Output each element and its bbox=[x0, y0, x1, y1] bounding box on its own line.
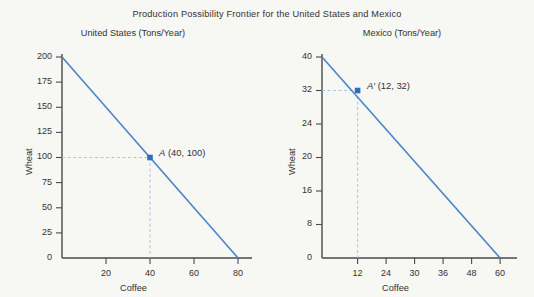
data-point-label-a: A (40, 100) bbox=[159, 147, 205, 158]
x-tick-label: 60 bbox=[480, 268, 520, 278]
y-tick-label: 200 bbox=[16, 51, 52, 61]
data-point-name: A′ bbox=[367, 80, 375, 91]
y-tick-label: 24 bbox=[279, 118, 312, 128]
y-tick-label: 50 bbox=[16, 202, 52, 212]
y-tick-label: 125 bbox=[16, 126, 52, 136]
ppf-line-mexico bbox=[322, 57, 500, 258]
data-point-label-a-prime: A′ (12, 32) bbox=[367, 80, 410, 91]
data-point-coords: (12, 32) bbox=[378, 80, 410, 91]
y-tick-label: 16 bbox=[279, 185, 312, 195]
y-tick-label: 40 bbox=[279, 51, 312, 61]
x-tick-label: 60 bbox=[174, 268, 214, 278]
y-axis-title: Wheat bbox=[24, 148, 34, 175]
data-point-marker-a-prime[interactable] bbox=[355, 88, 361, 94]
y-tick-label: 8 bbox=[279, 218, 312, 228]
x-axis-title: Coffee bbox=[0, 283, 267, 293]
data-point-coords: (40, 100) bbox=[168, 147, 206, 158]
y-tick-label: 175 bbox=[16, 76, 52, 86]
ppf-figure: Production Possibility Frontier for the … bbox=[0, 0, 534, 297]
x-tick-label: 80 bbox=[218, 268, 258, 278]
y-tick-label: 100 bbox=[16, 151, 52, 161]
y-tick-label: 25 bbox=[16, 227, 52, 237]
y-tick-label: 150 bbox=[16, 101, 52, 111]
data-point-name: A bbox=[159, 147, 165, 158]
x-tick-label: 40 bbox=[130, 268, 170, 278]
y-tick-label: 32 bbox=[279, 84, 312, 94]
x-axis-title: Coffee bbox=[267, 283, 524, 293]
y-tick-label: 0 bbox=[16, 252, 52, 262]
y-tick-label: 75 bbox=[16, 177, 52, 187]
data-point-marker-a[interactable] bbox=[147, 155, 153, 161]
y-axis-title: Wheat bbox=[287, 148, 297, 175]
y-tick-label: 0 bbox=[279, 252, 312, 262]
chart-panel-mexico: Mexico (Tons/Year) bbox=[267, 0, 534, 297]
x-tick-label: 20 bbox=[86, 268, 126, 278]
chart-panel-united-states: United States (Tons/Year) bbox=[0, 0, 267, 297]
